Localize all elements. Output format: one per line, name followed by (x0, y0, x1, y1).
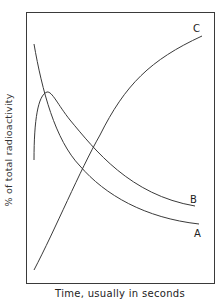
y-axis-label: % of total radioactivity (3, 70, 17, 230)
chart (0, 0, 223, 306)
curve-a (34, 44, 199, 224)
curve-c-label: C (193, 23, 200, 34)
curve-b-label: B (190, 194, 197, 205)
plot-frame (27, 13, 215, 284)
curve-a-label: A (194, 228, 201, 239)
curve-c (34, 36, 202, 270)
x-axis-label: Time, usually in seconds (26, 288, 214, 299)
